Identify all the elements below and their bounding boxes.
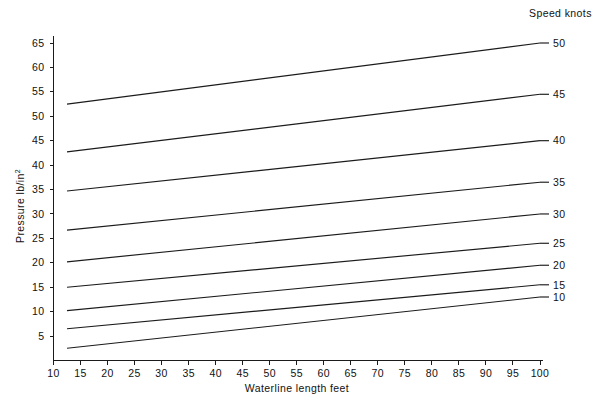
x-tick-label: 55 <box>291 367 303 379</box>
x-tick-label: 65 <box>345 367 357 379</box>
series-label-35: 35 <box>553 176 565 188</box>
series-label-20: 20 <box>553 259 565 271</box>
y-tick-label: 15 <box>32 281 44 293</box>
y-tick-label: 40 <box>32 159 44 171</box>
y-axis-title-superscript: 2 <box>14 169 21 173</box>
series-label-50: 50 <box>553 37 565 49</box>
y-tick-label: 5 <box>38 330 44 342</box>
chart-container: 5101520253035404550556065 10152025303540… <box>0 0 604 405</box>
series-label-30: 30 <box>553 208 565 220</box>
x-tick-label: 15 <box>74 367 86 379</box>
y-tick-label: 50 <box>32 110 44 122</box>
x-tick-label: 80 <box>426 367 438 379</box>
x-tick-label: 10 <box>47 367 59 379</box>
y-axis-title: Pressure lb/in2 <box>14 169 26 243</box>
x-tick-label: 30 <box>155 367 167 379</box>
y-tick-label: 25 <box>32 232 44 244</box>
x-tick-label: 95 <box>507 367 519 379</box>
series-label-40: 40 <box>553 134 565 146</box>
y-tick-label: 30 <box>32 208 44 220</box>
y-tick-label: 10 <box>32 305 44 317</box>
series-label-45: 45 <box>553 88 565 100</box>
y-tick-label: 65 <box>32 37 44 49</box>
x-tick-label: 20 <box>101 367 113 379</box>
y-tick-label: 55 <box>32 85 44 97</box>
x-tick-label: 45 <box>236 367 248 379</box>
chart-background <box>0 0 604 405</box>
y-tick-label: 35 <box>32 183 44 195</box>
line-chart-svg: 5101520253035404550556065 10152025303540… <box>0 0 604 405</box>
y-axis-title-text: Pressure lb/in <box>14 173 26 243</box>
x-tick-label: 85 <box>453 367 465 379</box>
x-tick-label: 75 <box>399 367 411 379</box>
x-tick-label: 35 <box>182 367 194 379</box>
series-label-10: 10 <box>553 291 565 303</box>
x-tick-label: 70 <box>372 367 384 379</box>
legend-title: Speed knots <box>529 7 592 19</box>
series-label-25: 25 <box>553 237 565 249</box>
x-tick-label: 90 <box>480 367 492 379</box>
x-tick-label: 60 <box>318 367 330 379</box>
y-tick-label: 45 <box>32 134 44 146</box>
svg-text:Pressure lb/in2: Pressure lb/in2 <box>14 169 26 243</box>
series-label-15: 15 <box>553 279 565 291</box>
x-axis-title: Waterline length feet <box>245 382 349 394</box>
x-tick-label: 50 <box>263 367 275 379</box>
x-tick-label: 100 <box>531 367 550 379</box>
x-tick-label: 40 <box>209 367 221 379</box>
y-tick-label: 20 <box>32 256 44 268</box>
y-tick-label: 60 <box>32 61 44 73</box>
x-tick-label: 25 <box>128 367 140 379</box>
